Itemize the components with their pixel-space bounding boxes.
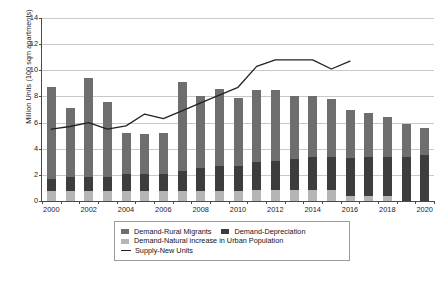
y-tick-label: 10 [30,67,38,74]
x-tick-mark [359,201,360,204]
x-tick-label: 2020 [416,206,432,213]
x-tick-mark [173,201,174,204]
legend-row-2: Demand-Natural increase in Urban Populat… [121,237,343,245]
x-tick-label: 2010 [230,206,246,213]
legend-label: Demand-Depreciation [234,228,305,236]
y-tick-label: 8 [34,93,38,100]
legend-label: Demand-Rural Migrants [134,228,211,236]
x-tick-label: 2006 [155,206,171,213]
legend-row-3: Supply-New Units [121,247,343,255]
legend-swatch-icon [221,229,229,234]
legend-row-1: Demand-Rural Migrants Demand-Depreciatio… [121,228,343,236]
x-tick-mark [303,201,304,204]
x-tick-mark [135,201,136,204]
legend-item-natural-increase[interactable]: Demand-Natural increase in Urban Populat… [121,237,283,245]
x-tick-label: 2014 [304,206,320,213]
x-tick-mark [341,201,342,204]
x-tick-mark [79,201,80,204]
x-tick-mark [117,201,118,204]
x-tick-mark [285,201,286,204]
x-tick-mark [378,201,379,204]
x-tick-mark [98,201,99,204]
x-tick-mark [247,201,248,204]
gridline [42,201,434,202]
x-tick-mark [210,201,211,204]
x-tick-mark [42,201,43,204]
x-tick-label: 2008 [192,206,208,213]
x-tick-mark [397,201,398,204]
x-tick-mark [322,201,323,204]
x-tick-label: 2012 [267,206,283,213]
x-tick-mark [154,201,155,204]
y-tick-label: 14 [30,14,38,21]
x-tick-label: 2018 [379,206,395,213]
y-tick-label: 0 [34,197,38,204]
x-tick-label: 2002 [80,206,96,213]
legend-label: Demand-Natural increase in Urban Populat… [134,237,283,245]
y-tick-label: 6 [34,119,38,126]
y-tick-label: 12 [30,40,38,47]
chart-figure: Million Units (100 sqm apartments) 02468… [0,0,447,281]
x-tick-mark [266,201,267,204]
x-tick-mark [191,201,192,204]
x-tick-mark [434,201,435,204]
x-tick-mark [229,201,230,204]
legend-item-depreciation[interactable]: Demand-Depreciation [221,228,305,236]
x-tick-label: 2016 [342,206,358,213]
y-tick-label: 4 [34,145,38,152]
x-tick-mark [61,201,62,204]
plot-area: 02468101214 2000200220042006200820102012… [42,18,434,201]
supply-line-series [42,18,434,201]
chart-legend: Demand-Rural Migrants Demand-Depreciatio… [114,221,350,261]
x-tick-label: 2000 [43,206,59,213]
legend-swatch-icon [121,229,129,234]
legend-swatch-icon [121,239,129,244]
legend-item-rural-migrants[interactable]: Demand-Rural Migrants [121,228,211,236]
legend-line-icon [121,250,131,251]
x-tick-label: 2004 [118,206,134,213]
legend-item-supply-new-units[interactable]: Supply-New Units [121,247,193,255]
x-tick-mark [415,201,416,204]
legend-label: Supply-New Units [135,247,193,255]
y-tick-label: 2 [34,171,38,178]
